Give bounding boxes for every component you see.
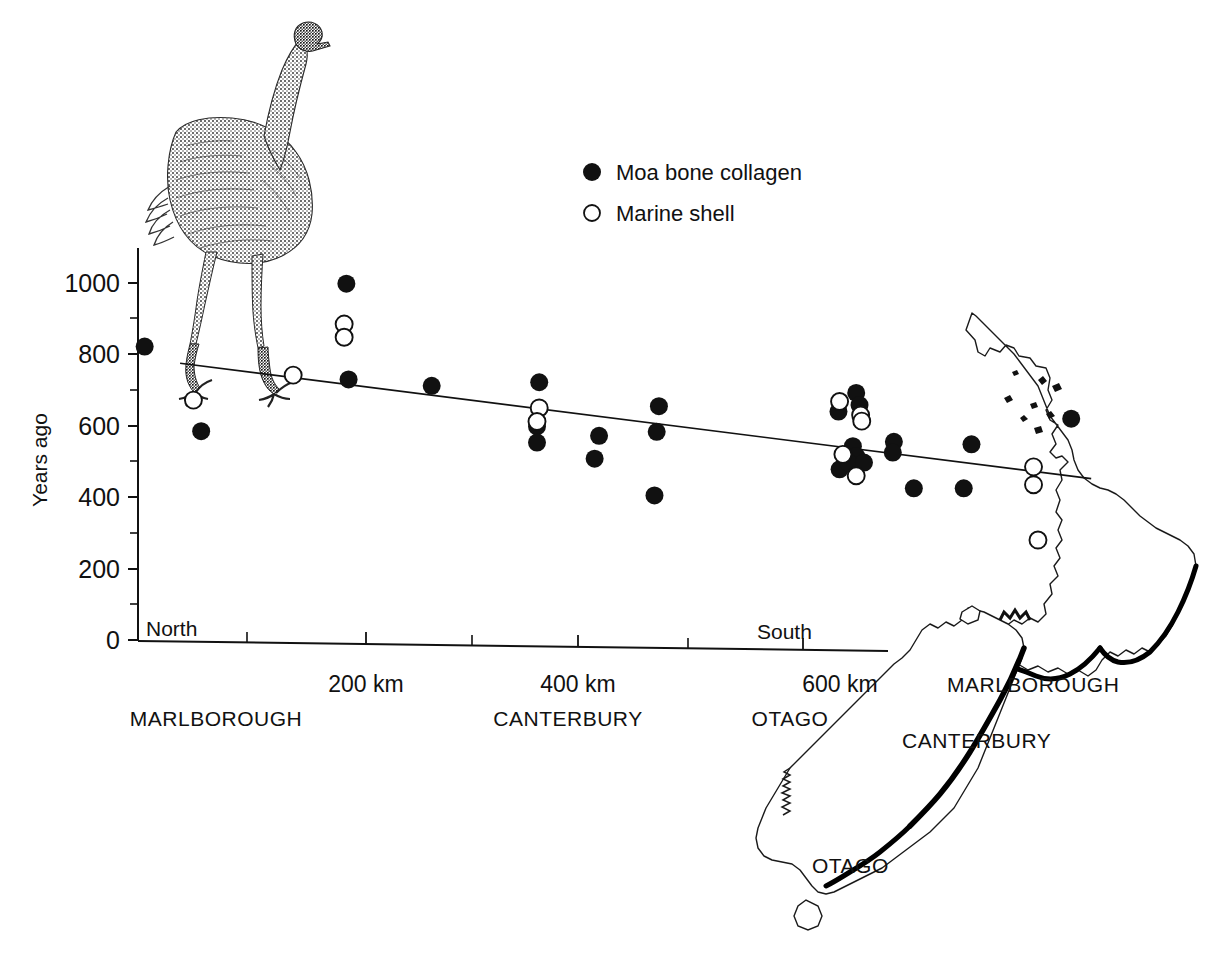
data-point-marine-shell [853,413,870,430]
data-point-moa-bone-collagen [586,450,604,468]
data-point-marine-shell [1029,532,1046,549]
svg-text:0: 0 [106,626,120,654]
open-circle-icon [584,205,600,221]
x-tick-400: 400 km [540,635,615,697]
figure-root: MARLBOROUGH CANTERBURY OTAGO Moa bone co… [0,0,1210,975]
plot-axes: 0 200 400 600 800 1000 [28,248,888,730]
map-label-otago: OTAGO [812,854,889,877]
y-tick-800: 800 [78,340,138,368]
data-point-marine-shell [336,329,353,346]
data-point-moa-bone-collagen [884,444,902,462]
south-label: South [757,620,812,643]
svg-text:600 km: 600 km [802,671,877,697]
data-point-moa-bone-collagen [590,427,608,445]
data-point-marine-shell [831,393,848,410]
svg-text:400: 400 [78,483,120,511]
map-label-canterbury: CANTERBURY [902,729,1051,752]
y-minor-ticks [130,318,138,604]
data-point-moa-bone-collagen [530,373,548,391]
svg-text:1000: 1000 [64,269,120,297]
y-tick-400: 400 [78,483,138,511]
data-point-moa-bone-collagen [192,422,210,440]
data-point-marine-shell [529,413,546,430]
y-tick-0: 0 [106,626,138,654]
data-point-marine-shell [848,467,865,484]
data-point-moa-bone-collagen [423,377,441,395]
data-point-moa-bone-collagen [528,434,546,452]
legend-label-marine-shell: Marine shell [616,201,735,226]
legend: Moa bone collagen Marine shell [583,160,802,226]
regression-trendline [180,363,1091,478]
filled-circle-icon [583,163,601,181]
svg-text:200: 200 [78,555,120,583]
data-point-moa-bone-collagen [962,435,980,453]
svg-text:800: 800 [78,340,120,368]
legend-label-moa-bone-collagen: Moa bone collagen [616,160,802,185]
x-tick-600: 600 km [802,638,877,697]
region-label-otago: OTAGO [752,707,829,730]
region-label-marlborough: MARLBOROUGH [130,707,302,730]
data-point-moa-bone-collagen [1062,410,1080,428]
data-point-moa-bone-collagen [645,486,663,504]
data-point-moa-bone-collagen [955,479,973,497]
legend-item-marine-shell: Marine shell [584,201,735,226]
new-zealand-map: MARLBOROUGH CANTERBURY OTAGO [756,313,1196,930]
map-label-marlborough: MARLBOROUGH [947,673,1119,696]
data-point-moa-bone-collagen [136,338,154,356]
data-point-marine-shell [285,367,302,384]
region-label-canterbury: CANTERBURY [493,707,642,730]
y-tick-600: 600 [78,412,138,440]
data-points-layer [136,275,1081,549]
svg-text:200 km: 200 km [328,671,403,697]
y-tick-1000: 1000 [64,269,138,297]
legend-item-moa-bone-collagen: Moa bone collagen [583,160,802,185]
data-point-moa-bone-collagen [337,275,355,293]
data-point-marine-shell [185,392,202,409]
data-point-moa-bone-collagen [648,423,666,441]
data-point-marine-shell [834,446,851,463]
data-point-moa-bone-collagen [340,370,358,388]
data-point-marine-shell [1025,476,1042,493]
trendline-path [180,363,1091,478]
svg-text:600: 600 [78,412,120,440]
x-tick-200: 200 km [328,632,403,697]
moa-bird-engraving [146,22,330,407]
north-label: North [146,617,197,640]
data-point-moa-bone-collagen [650,397,668,415]
data-point-moa-bone-collagen [905,479,923,497]
svg-text:400 km: 400 km [540,671,615,697]
y-axis-title: Years ago [28,413,51,507]
stewart-island [794,900,822,930]
data-point-marine-shell [1025,458,1042,475]
y-tick-200: 200 [78,555,138,583]
figure-svg: MARLBOROUGH CANTERBURY OTAGO Moa bone co… [0,0,1210,975]
